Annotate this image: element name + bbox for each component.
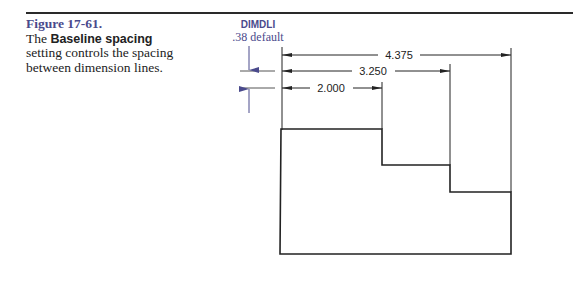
extension-lines	[282, 47, 511, 192]
dim-2000: 2.000	[317, 82, 345, 94]
part-outline	[280, 129, 511, 254]
dim-3250: 3.250	[359, 65, 387, 77]
dim-4375: 4.375	[385, 49, 413, 61]
dimdli-spacing-indicator	[240, 46, 275, 113]
dimension-drawing: 4.375 3.250 2.000	[0, 0, 588, 283]
